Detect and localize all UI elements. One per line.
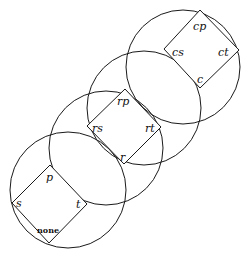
label-s: s <box>16 197 22 210</box>
diagram-canvas: p s t none rp rs rt r cp cs ct c <box>0 0 249 255</box>
label-none: none <box>37 225 59 235</box>
label-rs: rs <box>92 122 103 135</box>
label-c: c <box>197 73 203 86</box>
label-rp: rp <box>117 95 129 108</box>
label-p: p <box>46 171 53 184</box>
label-rt: rt <box>145 122 155 135</box>
square-fills <box>12 10 239 243</box>
label-cs: cs <box>172 46 184 59</box>
label-ct: ct <box>218 46 229 59</box>
label-t: t <box>76 198 81 211</box>
label-r: r <box>120 151 126 164</box>
label-cp: cp <box>193 20 206 33</box>
